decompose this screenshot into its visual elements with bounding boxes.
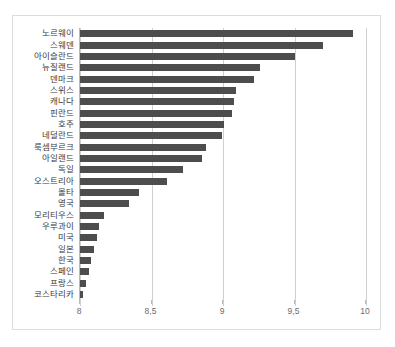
category-label: 노르웨이 [42, 28, 74, 39]
category-label: 독일 [58, 164, 74, 175]
top-caption [14, 0, 374, 8]
value-axis: 88,599,510 [79, 300, 366, 324]
bar[interactable] [80, 223, 99, 230]
bar[interactable] [80, 30, 353, 37]
axis-tick-label: 9 [220, 306, 225, 316]
bar[interactable] [80, 212, 104, 219]
bar[interactable] [80, 246, 94, 253]
bar[interactable] [80, 268, 89, 275]
category-label: 덴마크 [50, 74, 74, 85]
category-label: 코스타리카 [34, 289, 74, 300]
bar[interactable] [80, 178, 167, 185]
bar[interactable] [80, 87, 236, 94]
axis-tick-mark [222, 300, 223, 304]
axis-tick-label: 8,5 [145, 306, 157, 316]
category-label: 프랑스 [50, 278, 74, 289]
axis-tick-mark [79, 300, 80, 304]
category-label: 우루과이 [42, 221, 74, 232]
category-label: 한국 [58, 255, 74, 266]
category-label: 아이슬란드 [34, 51, 74, 62]
category-label: 핀란드 [50, 108, 74, 119]
category-label: 네덜란드 [42, 130, 74, 141]
bar[interactable] [80, 76, 254, 83]
axis-tick-mark [151, 300, 152, 304]
category-label: 룩셈부르크 [34, 142, 74, 153]
bar[interactable] [80, 132, 222, 139]
category-label: 호주 [58, 119, 74, 130]
chart-frame: 노르웨이스웨덴아이슬란드뉴질랜드덴마크스위스캐나다핀란드호주네덜란드룩셈부르크아… [12, 15, 381, 330]
bar[interactable] [80, 98, 234, 105]
bar[interactable] [80, 166, 183, 173]
category-axis-labels: 노르웨이스웨덴아이슬란드뉴질랜드덴마크스위스캐나다핀란드호주네덜란드룩셈부르크아… [13, 28, 77, 300]
gridline [366, 28, 367, 306]
bar[interactable] [80, 121, 224, 128]
category-label: 스웨덴 [50, 40, 74, 51]
bar[interactable] [80, 42, 323, 49]
axis-tick-label: 8 [77, 306, 82, 316]
bar[interactable] [80, 110, 232, 117]
category-label: 미국 [58, 232, 74, 243]
bar[interactable] [80, 155, 202, 162]
category-label: 일본 [58, 244, 74, 255]
bar[interactable] [80, 234, 97, 241]
category-label: 오스트리아 [34, 176, 74, 187]
plot-wrapper: 노르웨이스웨덴아이슬란드뉴질랜드덴마크스위스캐나다핀란드호주네덜란드룩셈부르크아… [13, 16, 380, 329]
bar[interactable] [80, 64, 260, 71]
category-label: 캐나다 [50, 96, 74, 107]
bar[interactable] [80, 257, 91, 264]
bar[interactable] [80, 200, 129, 207]
axis-tick-label: 10 [360, 306, 369, 316]
bar[interactable] [80, 291, 83, 298]
axis-tick-label: 9,5 [288, 306, 300, 316]
category-label: 아일랜드 [42, 153, 74, 164]
category-label: 스위스 [50, 85, 74, 96]
axis-tick-mark [365, 300, 366, 304]
category-label: 영국 [58, 198, 74, 209]
gridline [295, 28, 296, 306]
category-label: 뉴질랜드 [42, 62, 74, 73]
bar[interactable] [80, 280, 86, 287]
plot-area [79, 28, 366, 300]
bar[interactable] [80, 144, 206, 151]
bar[interactable] [80, 189, 139, 196]
bar[interactable] [80, 53, 295, 60]
category-label: 스페인 [50, 266, 74, 277]
category-label: 모리티우스 [34, 210, 74, 221]
category-label: 몰타 [58, 187, 74, 198]
axis-tick-mark [294, 300, 295, 304]
